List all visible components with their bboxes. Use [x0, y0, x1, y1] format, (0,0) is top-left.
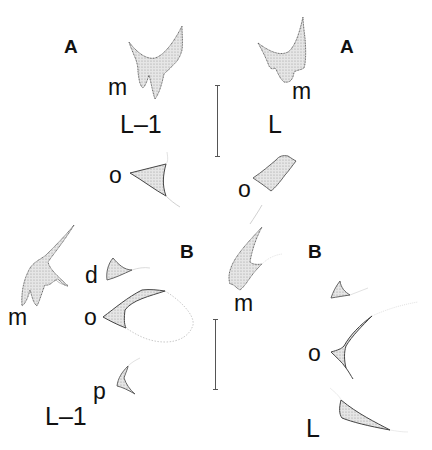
panel-b-right-letter: B: [308, 242, 322, 261]
panel-b-right-stage-label: L: [306, 416, 320, 441]
panel-a-left-letter: A: [64, 37, 78, 56]
panel-a-right-m-label: m: [292, 80, 311, 103]
panel-a-right-stage-label: L: [268, 112, 282, 137]
panel-b-left-p-element: [117, 358, 140, 394]
panel-b-left-o-element: [103, 290, 193, 342]
panel-a-right-letter: A: [340, 37, 354, 56]
panel-b-left-o-label: o: [84, 306, 97, 329]
panel-a-left-o-label: o: [109, 164, 122, 187]
panel-b-right-o-element: [331, 302, 418, 379]
panel-a-left-o-element: [130, 152, 180, 207]
figure: A A m m L–1 L o o B B d m o m o p L–1 L: [0, 0, 432, 450]
panel-a-right-o-label: o: [238, 178, 251, 201]
panel-b-right-m-label: m: [234, 292, 253, 315]
panel-b-right-d-element: [331, 281, 368, 298]
panel-b-left-m-label: m: [8, 306, 27, 329]
scale-bar-panel-a: [217, 85, 218, 157]
scale-bar-panel-b: [215, 319, 216, 390]
panel-a-right-m-element: [258, 17, 306, 82]
panel-b-left-letter: B: [180, 242, 194, 261]
panel-b-right-m-element: [229, 227, 282, 290]
panel-b-left-p-label: p: [93, 380, 106, 403]
panel-b-left-d-label: d: [85, 264, 98, 287]
panel-b-left-stage-label: L–1: [45, 404, 87, 429]
panel-b-right-l-element: [330, 388, 408, 432]
panel-a-left-stage-label: L–1: [120, 112, 162, 137]
panel-a-right-o-element: [250, 156, 296, 224]
panel-a-left-m-label: m: [108, 76, 127, 99]
panel-b-left-m-element: [22, 225, 74, 306]
panel-b-right-o-label: o: [308, 342, 321, 365]
specimen-drawings: [0, 0, 432, 450]
panel-b-left-d-element: [107, 258, 150, 280]
panel-a-left-m-element: [129, 26, 182, 99]
